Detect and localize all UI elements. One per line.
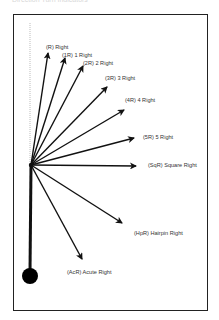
label-5-right: (5R) 5 Right [143,135,173,141]
label-4-right: (4R) 4 Right [125,98,155,104]
label-hairpin-right: (HpR) Hairpin Right [134,231,183,237]
arrow-acute-right-icon [31,165,82,259]
label-acute-right: (AcR) Acute Right [67,270,111,276]
arrow-hairpin-right-icon [31,165,122,223]
approach-stem [30,165,31,272]
label-square-right: (SqR) Square Right [148,163,197,169]
label-3-right: (3R) 3 Right [105,76,135,82]
arrow-5-right-icon [31,138,134,165]
label-2-right: (2R) 2 Right [83,61,113,67]
start-dot-icon [22,268,38,284]
arrow-square-right-icon [31,165,136,166]
arrow-1-right-icon [31,58,65,165]
label-1-right: (1R) 1 Right [62,53,92,59]
label-right: (R) Right [46,45,68,51]
origin-node [29,163,33,167]
